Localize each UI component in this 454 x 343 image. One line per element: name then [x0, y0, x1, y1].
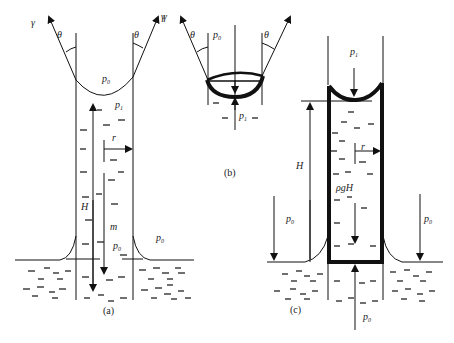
gamma-left-label: γ: [31, 17, 36, 28]
p0-top-label: p0: [101, 73, 110, 85]
theta-right-label-b: θ: [264, 29, 269, 40]
outer-surface-left: [15, 236, 76, 260]
caption-b: (b): [224, 167, 236, 179]
radius-label: r: [112, 132, 116, 143]
p1-label-b: p1: [238, 110, 247, 122]
height-label-c: H: [295, 160, 304, 171]
panel-b: γ θ θ p0 p1 (b): [161, 11, 290, 179]
height-label: H: [80, 201, 89, 212]
p1-label-c: p1: [349, 46, 358, 58]
p0-label-b: p0: [212, 29, 221, 41]
p0-outer-label: p0: [155, 232, 164, 244]
panel-c: p1 H r ρgH p0 p0 p0: [267, 36, 443, 330]
outer-surface-right-c: [383, 236, 443, 262]
outer-surface-left-c: [267, 236, 328, 262]
rhogh-label: ρgH: [335, 182, 354, 193]
capillary-diagram: γ γ θ θ p0 p1 H r m p0 p0: [0, 0, 454, 343]
caption-a: (a): [103, 305, 114, 317]
contact-angle-arc-left: [66, 47, 76, 52]
liquid-dashes-a: [23, 110, 191, 301]
contact-angle-arc-right-b: [262, 43, 274, 49]
p0-left-label-c: p0: [285, 213, 294, 225]
surface-tension-arrow-right-b: [262, 17, 290, 76]
p0-right-label-c: p0: [423, 213, 432, 225]
p0-inner-label: p0: [112, 240, 121, 252]
mass-label: m: [110, 221, 117, 232]
p1-label: p1: [114, 99, 123, 111]
contact-angle-arc-right: [133, 43, 143, 48]
theta-left-label: θ: [57, 29, 62, 40]
p0-bottom-label-c: p0: [362, 311, 371, 323]
theta-left-label-b: θ: [190, 29, 195, 40]
meniscus-c: [329, 83, 382, 100]
theta-right-label: θ: [134, 29, 139, 40]
caption-c: (c): [290, 304, 301, 316]
radius-label-c: r: [361, 141, 365, 152]
panel-a: γ γ θ θ p0 p1 H r m p0 p0: [15, 11, 194, 317]
contact-angle-arc-left-b: [197, 47, 208, 52]
surface-tension-arrow-right: [133, 17, 158, 77]
